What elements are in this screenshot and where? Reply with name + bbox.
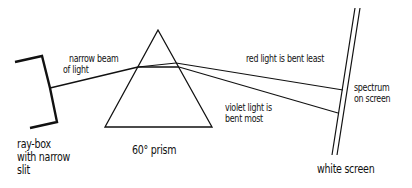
label-ray-box: ray-box with narrow slit [17, 138, 70, 177]
label-line: narrow beam [69, 53, 118, 64]
label-violet-light: violet light is bent most [225, 102, 272, 124]
label-white-screen: white screen [317, 163, 374, 176]
label-prism: 60° prism [132, 144, 176, 157]
label-line: on screen [354, 93, 390, 104]
prism [105, 30, 212, 127]
label-line: slit [17, 164, 70, 177]
label-line: red light is bent least [246, 53, 324, 64]
ray-box [15, 56, 57, 128]
label-line: of light [63, 64, 89, 75]
label-line: 60° prism [132, 144, 176, 157]
label-of-light: of light [63, 64, 89, 75]
label-line: spectrum [354, 82, 390, 93]
label-line: violet light is [225, 102, 272, 113]
label-line: white screen [317, 163, 374, 176]
label-narrow-beam: narrow beam [69, 53, 118, 64]
label-line: bent most [225, 113, 272, 124]
red-ray [176, 63, 343, 90]
white-screen-left-edge [332, 8, 355, 155]
label-red-light: red light is bent least [246, 53, 324, 64]
label-spectrum: spectrum on screen [354, 82, 390, 104]
